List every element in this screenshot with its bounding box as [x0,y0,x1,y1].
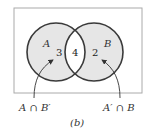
annotation-not-a-b: A′ ∩ B [102,102,135,113]
b-only-count: 2 [92,47,98,58]
venn-diagram: A B 3 4 2 A ∩ B′ A′ ∩ B (b) [0,0,151,134]
caption: (b) [70,117,84,128]
a-only-count: 3 [56,47,62,58]
set-a-label: A [42,38,50,49]
intersection-count: 4 [72,47,78,58]
annotation-a-not-b: A ∩ B′ [18,102,51,113]
set-b-label: B [103,38,111,49]
